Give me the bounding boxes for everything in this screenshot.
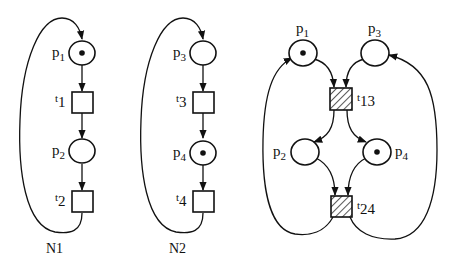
arc-p1-t13 <box>314 59 334 87</box>
token <box>79 50 85 56</box>
place-p2-composed <box>291 139 319 165</box>
place-p3-composed <box>361 40 389 66</box>
net-label-n2: N2 <box>169 241 186 256</box>
place-label-p2: p2 <box>52 142 65 161</box>
transition-label-t1: t1 <box>55 92 66 110</box>
token <box>300 50 306 56</box>
place-label-p1: p1 <box>52 44 65 63</box>
transition-label-t13: t13 <box>357 91 375 109</box>
place-label-p2-composed: p2 <box>273 143 286 162</box>
transition-t3 <box>193 92 214 113</box>
place-p4-composed <box>363 139 391 165</box>
place-label-p3-composed: p3 <box>368 20 382 39</box>
transition-label-t2: t2 <box>55 191 66 209</box>
transition-label-t24: t24 <box>357 199 376 217</box>
net-label-n1: N1 <box>46 241 63 256</box>
arc-t13-p4 <box>347 110 366 142</box>
arc-t13-p2 <box>314 110 334 142</box>
place-p4 <box>190 141 216 165</box>
arc-p2-t24 <box>316 158 335 195</box>
token <box>374 149 380 155</box>
petri-net-diagram: p1 t1 p2 t2 N1 p3 t3 p4 t4 N2 <box>0 0 458 265</box>
transition-t4 <box>193 191 214 212</box>
arc-p3-t13 <box>346 59 364 87</box>
place-label-p4-composed: p4 <box>395 143 409 162</box>
place-label-p4: p4 <box>173 144 187 163</box>
place-p3 <box>190 41 216 65</box>
place-p2 <box>69 139 95 163</box>
arc-p4-t24 <box>348 158 366 195</box>
transition-t2 <box>72 191 93 212</box>
net-composed: p1 p3 t13 p2 p4 t24 <box>263 20 437 239</box>
transition-label-t3: t3 <box>176 92 187 110</box>
place-label-p1-composed: p1 <box>296 20 309 39</box>
net-n1: p1 t1 p2 t2 N1 <box>20 18 95 256</box>
net-n2: p3 t3 p4 t4 N2 <box>141 18 216 256</box>
transition-t13 <box>330 88 352 110</box>
transition-label-t4: t4 <box>176 191 187 209</box>
place-p1-composed <box>289 40 317 66</box>
transition-t24 <box>331 196 352 217</box>
token <box>200 150 206 156</box>
place-p1 <box>69 41 95 65</box>
place-label-p3: p3 <box>173 44 187 63</box>
transition-t1 <box>72 92 93 113</box>
